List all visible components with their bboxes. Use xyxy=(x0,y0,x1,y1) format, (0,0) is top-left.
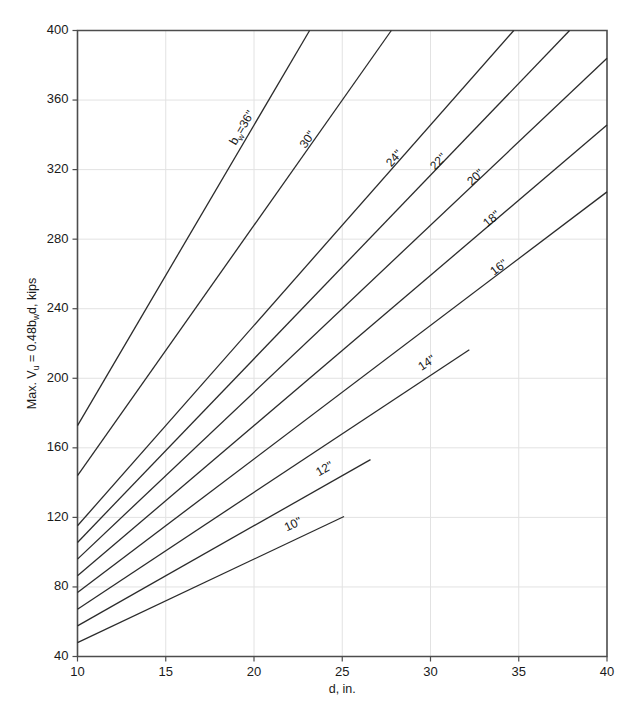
curve-label-12in: 12" xyxy=(313,458,335,479)
curve-label-14in: 14" xyxy=(415,352,437,373)
x-tick-label: 35 xyxy=(512,664,526,679)
curve-labels-layer: bw=36"30"24"22"20"18"16"14"12"10" xyxy=(226,108,510,534)
x-tick-label: 20 xyxy=(247,664,261,679)
curve-line-24in xyxy=(78,31,514,526)
grid-layer xyxy=(78,31,608,657)
curve-line-30in xyxy=(78,31,392,476)
y-tick-label: 160 xyxy=(47,439,69,454)
x-axis-title: d, in. xyxy=(329,682,356,696)
curve-line-14in xyxy=(78,350,470,609)
curve-label-group: 30" xyxy=(296,128,318,150)
axis-titles: d, in.Max. Vu = 0.48bwd, kips xyxy=(25,278,356,696)
tick-marks-layer xyxy=(73,31,608,662)
curve-label-group: 12" xyxy=(313,458,335,479)
x-tick-labels: 10152025303540 xyxy=(70,664,614,679)
chart-container: bw=36"30"24"22"20"18"16"14"12"10" 101520… xyxy=(0,0,639,721)
curve-line-36in xyxy=(78,31,310,426)
y-tick-label: 400 xyxy=(47,22,69,37)
curve-label-24in: 24" xyxy=(383,147,405,169)
curve-label-group: 24" xyxy=(383,147,405,169)
x-tick-label: 40 xyxy=(600,664,614,679)
y-axis-title: Max. Vu = 0.48bwd, kips xyxy=(25,278,41,409)
y-tick-label: 120 xyxy=(47,509,69,524)
shear-capacity-chart: bw=36"30"24"22"20"18"16"14"12"10" 101520… xyxy=(0,0,639,721)
y-tick-label: 320 xyxy=(47,161,69,176)
curve-line-10in xyxy=(78,517,345,643)
y-tick-label: 240 xyxy=(47,300,69,315)
y-tick-labels: 4080120160200240280320360400 xyxy=(47,22,69,663)
y-tick-label: 200 xyxy=(47,370,69,385)
curve-label-16in: 16" xyxy=(487,256,509,278)
x-tick-label: 25 xyxy=(335,664,349,679)
curve-label-group: 18" xyxy=(480,208,502,230)
y-tick-label: 280 xyxy=(47,231,69,246)
curve-label-group: 14" xyxy=(415,352,437,373)
curve-label-group: 16" xyxy=(487,256,509,278)
x-tick-label: 10 xyxy=(70,664,84,679)
curve-line-12in xyxy=(78,460,371,626)
x-tick-label: 15 xyxy=(159,664,173,679)
curve-label-18in: 18" xyxy=(480,208,502,230)
y-tick-label: 40 xyxy=(54,648,68,663)
curve-label-30in: 30" xyxy=(296,128,318,150)
y-tick-label: 80 xyxy=(54,578,68,593)
y-tick-label: 360 xyxy=(47,91,69,106)
x-tick-label: 30 xyxy=(423,664,437,679)
